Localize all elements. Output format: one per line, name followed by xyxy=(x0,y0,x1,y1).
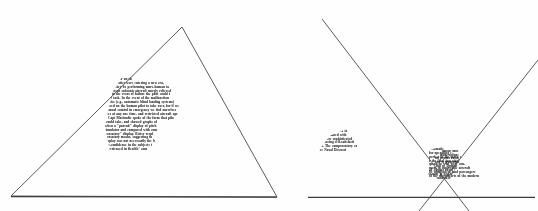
left-triangle-outline xyxy=(0,0,269,211)
descending-line xyxy=(322,19,469,211)
right-lines-outline xyxy=(269,0,538,211)
left-triangle-figure: ancilladuced anating factor on thAutomat… xyxy=(0,0,269,211)
ascending-line xyxy=(419,60,538,211)
baseline xyxy=(11,197,277,198)
figure-pair-page: ancilladuced anating factor on thAutomat… xyxy=(0,0,538,211)
triangle-outline xyxy=(11,27,277,197)
right-crossed-lines-figure: of monit'Gee' performancinformation wasl… xyxy=(269,0,538,211)
